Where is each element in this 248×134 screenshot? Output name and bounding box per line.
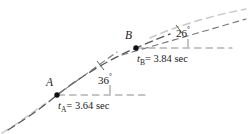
time-label-a-value: = 3.64 sec [66,100,109,111]
time-label-b: tB= 3.84 sec [137,54,188,67]
angle-label-b-value: 26 [176,27,187,39]
time-label-b-value: = 3.84 sec [145,53,188,64]
angle-label-b: 26° [176,26,190,39]
point-label-b: B [125,30,132,42]
trajectory-curve-light-lower [2,103,46,133]
time-label-a: tA= 3.64 sec [58,101,109,114]
angle-label-a-value: 36 [98,74,109,86]
degree-symbol-a: ° [109,72,112,81]
diagram-canvas [0,0,248,134]
point-label-a: A [46,77,53,89]
angle-label-a: 36° [98,73,112,86]
trajectory-curve-light-upper [150,9,246,38]
point-marker-b [133,45,138,50]
point-marker-a [54,92,59,97]
degree-symbol-b: ° [187,25,190,34]
trajectory-diagram: A 36° tA= 3.64 sec B 26° tB= 3.84 sec [0,0,248,134]
